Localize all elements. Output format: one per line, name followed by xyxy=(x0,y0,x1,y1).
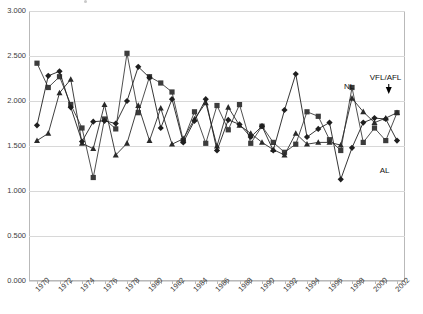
data-point xyxy=(237,102,242,107)
data-point xyxy=(124,51,129,56)
data-point xyxy=(158,80,163,85)
data-point xyxy=(34,137,40,143)
data-point xyxy=(226,127,231,132)
data-point xyxy=(192,109,197,114)
data-point xyxy=(293,71,299,77)
series-layer xyxy=(0,0,423,314)
data-point xyxy=(293,130,299,136)
data-point xyxy=(79,125,84,130)
annotation-arrowhead xyxy=(386,87,392,94)
series-vfl-afl xyxy=(34,51,399,180)
data-point xyxy=(304,109,309,114)
data-point xyxy=(147,137,153,143)
annotation-vfl-afl: VFL/AFL xyxy=(370,73,402,82)
data-point xyxy=(45,130,51,136)
data-point xyxy=(361,140,366,145)
data-point xyxy=(394,138,400,144)
data-point xyxy=(372,125,377,130)
data-point xyxy=(293,142,298,147)
data-point xyxy=(225,117,231,123)
data-point xyxy=(259,139,265,145)
data-point xyxy=(315,126,321,132)
data-point xyxy=(34,122,40,128)
data-point xyxy=(383,138,388,143)
data-point xyxy=(45,73,51,79)
data-point xyxy=(338,148,343,153)
data-point xyxy=(113,126,118,131)
series-line xyxy=(37,53,397,177)
data-point xyxy=(56,68,62,74)
data-point xyxy=(360,120,366,126)
data-point xyxy=(169,89,174,94)
data-point xyxy=(225,104,231,110)
series-line xyxy=(37,67,397,180)
data-point xyxy=(34,61,39,66)
chart-container: 3.0002.5002.0001.5001.0000.5000.000 1970… xyxy=(0,0,423,314)
data-point xyxy=(338,176,344,182)
data-point xyxy=(158,105,164,111)
annotation-al: AL xyxy=(380,166,390,175)
data-point xyxy=(90,119,96,125)
data-point xyxy=(326,120,332,126)
data-point xyxy=(281,107,287,113)
data-point xyxy=(203,141,208,146)
data-point xyxy=(169,141,175,147)
data-point xyxy=(316,114,321,119)
data-point xyxy=(90,146,96,152)
data-point xyxy=(248,141,253,146)
data-point xyxy=(304,134,310,140)
data-point xyxy=(91,175,96,180)
data-point xyxy=(158,125,164,131)
data-point xyxy=(102,101,108,107)
data-point xyxy=(214,103,219,108)
data-point xyxy=(124,140,130,146)
data-point xyxy=(68,76,74,82)
annotation-nl: NL xyxy=(344,82,354,91)
data-point xyxy=(113,120,119,126)
data-point xyxy=(349,145,355,151)
data-point xyxy=(124,98,130,104)
data-point xyxy=(203,96,209,102)
